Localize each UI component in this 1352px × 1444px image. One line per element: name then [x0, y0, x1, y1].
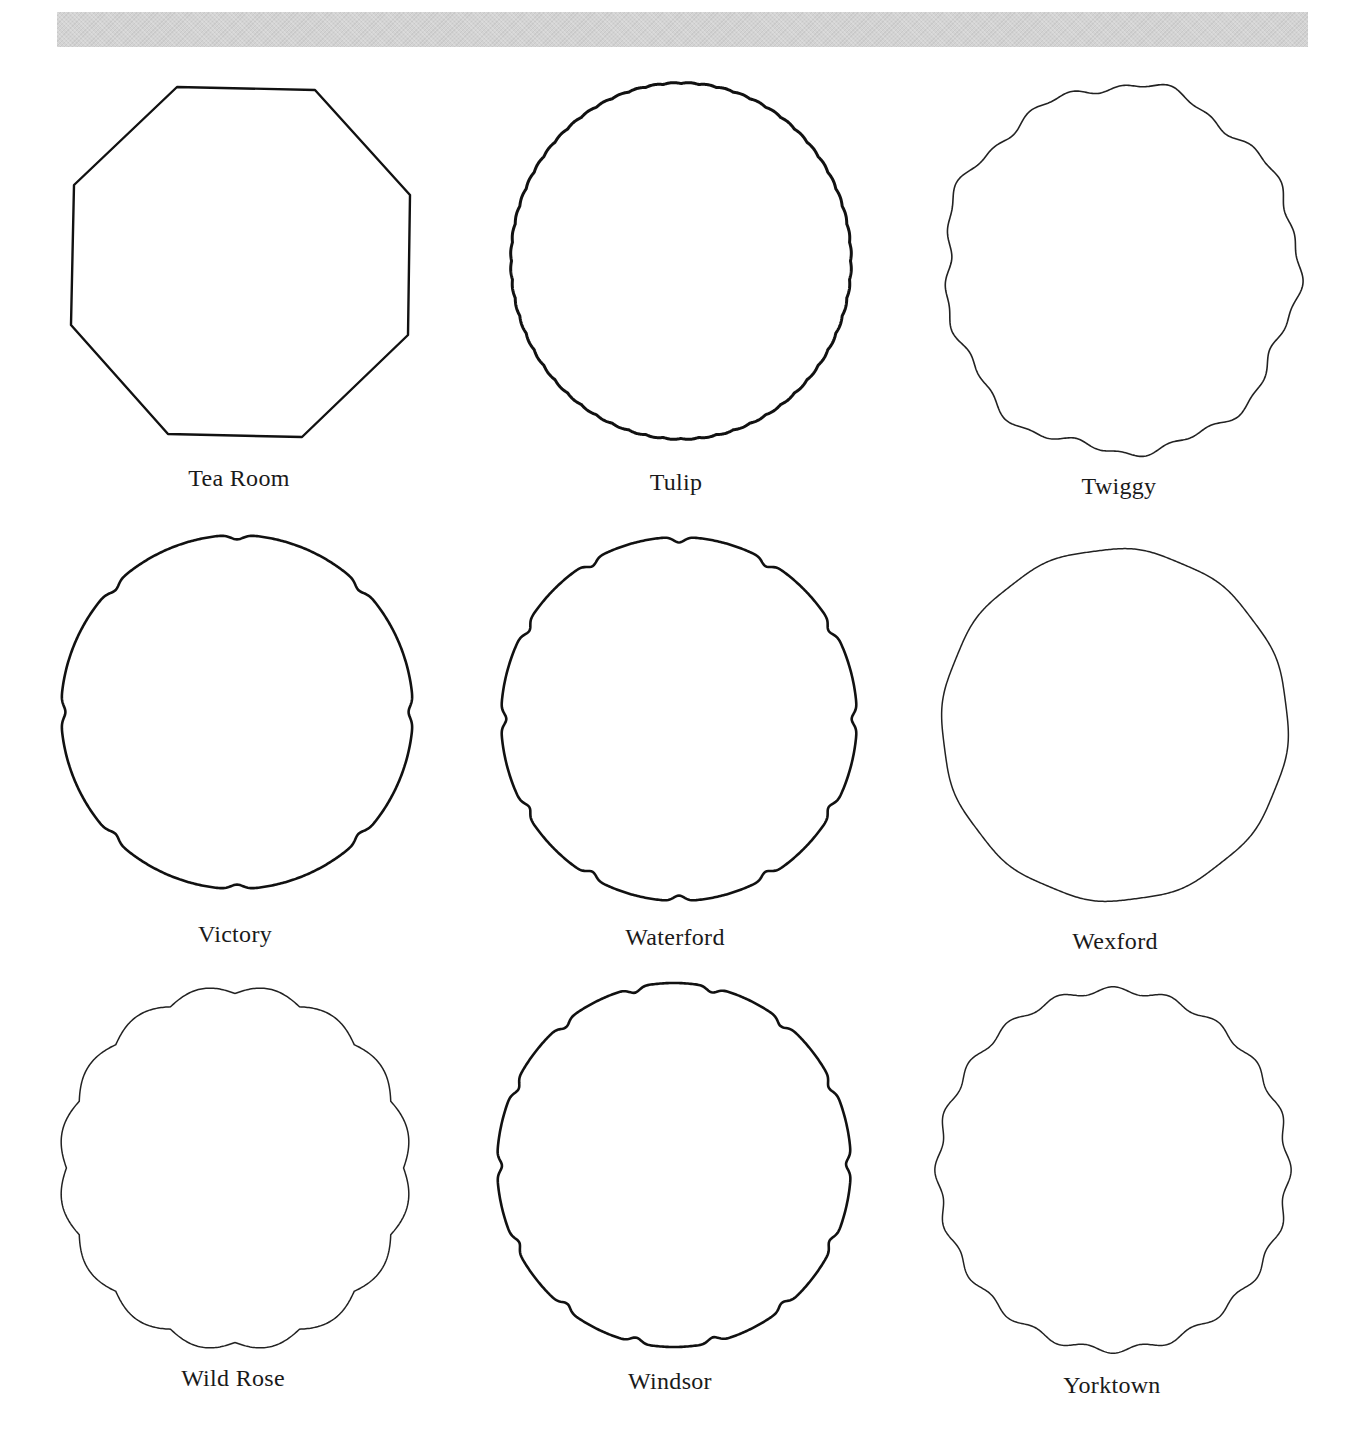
label-waterford: Waterford — [625, 925, 724, 949]
label-tulip: Tulip — [650, 470, 703, 494]
label-victory: Victory — [198, 922, 272, 946]
label-tea-room: Tea Room — [188, 466, 289, 490]
shape-tulip — [511, 83, 852, 440]
label-windsor: Windsor — [628, 1369, 712, 1393]
shape-twiggy — [945, 85, 1303, 457]
shape-windsor — [498, 983, 851, 1347]
shape-grid — [0, 0, 1352, 1444]
shape-wexford — [942, 549, 1289, 902]
shape-victory — [62, 536, 412, 888]
shape-waterford — [502, 538, 857, 901]
shape-wild-rose — [61, 988, 409, 1348]
shape-tea-room — [71, 87, 410, 437]
label-twiggy: Twiggy — [1082, 474, 1157, 498]
shape-yorktown — [935, 987, 1291, 1353]
label-wexford: Wexford — [1072, 929, 1157, 953]
label-yorktown: Yorktown — [1063, 1373, 1160, 1397]
label-wild-rose: Wild Rose — [181, 1366, 285, 1390]
